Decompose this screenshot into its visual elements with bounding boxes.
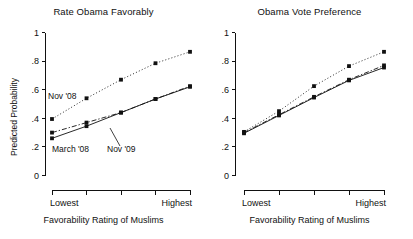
- data-point: [312, 95, 316, 99]
- y-tick-label: .2: [221, 142, 229, 152]
- x-tick-label-lowest: Lowest: [242, 198, 271, 208]
- series-line-march-08: [244, 68, 384, 134]
- panel-obama-vote-preference: Obama Vote Preference Favorability Ratin…: [206, 0, 413, 239]
- annotation-march08: March '08: [52, 144, 89, 154]
- data-point: [50, 117, 54, 121]
- y-tick-label: .8: [31, 56, 39, 66]
- y-tick-label: .6: [221, 85, 229, 95]
- data-point: [119, 111, 123, 115]
- plot-area-left: 0.2.4.6.81LowestHighestNov '08March '08N…: [0, 0, 207, 239]
- y-tick-label: .4: [31, 114, 39, 124]
- annotation-nov09: Nov '09: [107, 144, 136, 154]
- y-tick-label: .6: [31, 85, 39, 95]
- figure-two-panel-line-chart: Rate Obama Favorably Predicted Probabili…: [0, 0, 413, 239]
- data-point: [188, 84, 192, 88]
- y-tick-label: 1: [34, 28, 39, 38]
- data-point: [347, 78, 351, 82]
- x-tick-label-highest: Highest: [355, 198, 386, 208]
- y-tick-label: .2: [31, 142, 39, 152]
- data-point: [347, 64, 351, 68]
- data-point: [119, 78, 123, 82]
- data-point: [312, 84, 316, 88]
- data-point: [85, 96, 89, 100]
- y-tick-label: .8: [221, 56, 229, 66]
- data-point: [188, 50, 192, 54]
- data-point: [154, 61, 158, 65]
- y-tick-label: .4: [221, 114, 229, 124]
- y-tick-label: 0: [34, 171, 39, 181]
- data-point: [382, 63, 386, 67]
- data-point: [277, 113, 281, 117]
- data-point: [85, 121, 89, 125]
- data-point: [154, 97, 158, 101]
- y-tick-label: 1: [224, 28, 229, 38]
- data-point: [277, 109, 281, 113]
- data-point: [85, 124, 89, 128]
- x-tick-label-lowest: Lowest: [50, 198, 79, 208]
- series-line-nov-08: [52, 52, 190, 119]
- data-point: [50, 136, 54, 140]
- panel-rate-obama-favorably: Rate Obama Favorably Predicted Probabili…: [0, 0, 207, 239]
- data-point: [50, 131, 54, 135]
- data-point: [382, 50, 386, 54]
- series-line-nov-08: [244, 52, 384, 132]
- annotation-nov08: Nov '08: [48, 91, 77, 101]
- data-point: [242, 131, 246, 135]
- x-tick-label-highest: Highest: [161, 198, 192, 208]
- y-tick-label: 0: [224, 171, 229, 181]
- plot-area-right: 0.2.4.6.81LowestHighest: [206, 0, 413, 239]
